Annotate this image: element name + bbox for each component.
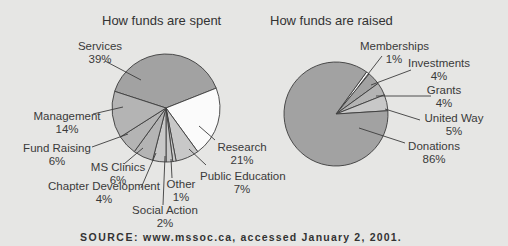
label-donations: Donations86% [403,140,465,166]
label-united-way: United Way5% [422,112,486,138]
label-investments: Investments4% [405,57,473,83]
label-grants: Grants4% [424,84,464,110]
source-note: SOURCE: www.mssoc.ca, accessed January 2… [80,231,402,243]
label-other: Other1% [164,178,198,204]
pie-raised [284,62,388,166]
label-fund-raising: Fund Raising6% [22,142,92,168]
label-chapter-development: Chapter Development4% [48,180,160,206]
label-services: Services39% [72,40,128,66]
pie-spent [112,54,220,162]
source-prefix: SOURCE: [80,231,139,243]
label-management: Management14% [30,110,104,136]
label-research: Research21% [214,141,270,167]
label-public-education: Public Education7% [200,170,284,196]
source-text: www.mssoc.ca, accessed January 2, 2001. [143,231,402,243]
label-social-action: Social Action2% [130,204,200,230]
